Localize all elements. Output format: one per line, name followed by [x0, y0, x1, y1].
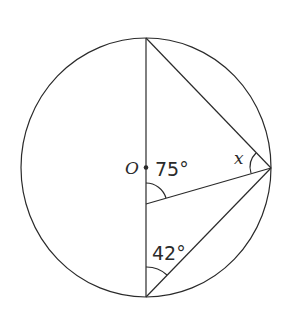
angle-label-x: x	[234, 148, 244, 168]
chord-top-right	[146, 38, 271, 168]
circle-diagram: O 75° x 42°	[0, 0, 290, 329]
angle-arc-75	[146, 183, 166, 198]
chord-bottom-right	[146, 168, 271, 297]
angle-arc-x	[250, 153, 256, 173]
angle-arc-42	[146, 267, 167, 275]
center-label: O	[125, 158, 139, 178]
angle-label-75: 75°	[155, 158, 189, 180]
angle-label-42: 42°	[152, 242, 186, 264]
center-point	[144, 165, 149, 170]
